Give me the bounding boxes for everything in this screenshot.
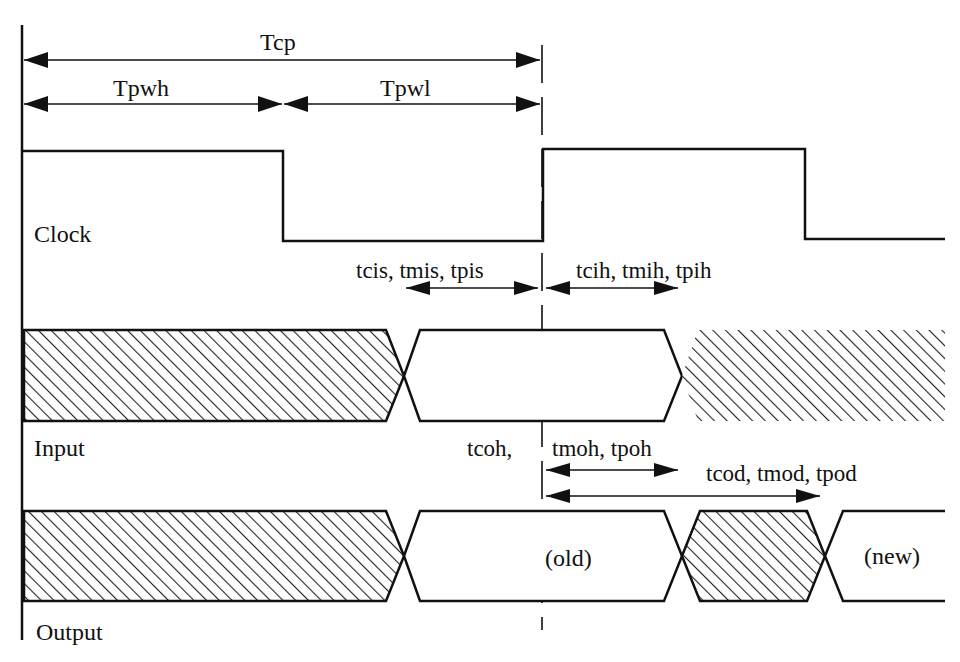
input-signal-label: Input bbox=[34, 435, 85, 461]
output-undefined-region-left bbox=[24, 511, 404, 601]
tpwh-label: Tpwh bbox=[113, 75, 169, 101]
output-hold-prefix-label: tcoh, bbox=[467, 436, 512, 461]
output-old-value-label: (old) bbox=[545, 545, 592, 571]
output-old-value-region bbox=[404, 511, 682, 601]
output-new-value-label: (new) bbox=[864, 543, 920, 569]
output-waveform bbox=[24, 511, 945, 601]
setup-time-arrow bbox=[406, 281, 538, 295]
output-signal-label: Output bbox=[36, 619, 103, 645]
hold-time-label: tcih, tmih, tpih bbox=[576, 258, 712, 283]
output-delay-label: tcod, tmod, tpod bbox=[706, 461, 857, 486]
input-valid-region bbox=[404, 330, 682, 421]
tcp-label: Tcp bbox=[260, 29, 296, 55]
input-undefined-region-right bbox=[682, 330, 945, 421]
output-delay-arrow bbox=[546, 489, 820, 503]
clock-signal-label: Clock bbox=[34, 221, 91, 247]
hold-time-arrow bbox=[546, 281, 678, 295]
clock-waveform bbox=[22, 149, 945, 241]
tpwl-label: Tpwl bbox=[380, 75, 431, 101]
timing-diagram: Tcp Tpwh Tpwl Clock tcis, tmis, tpis tci… bbox=[0, 0, 960, 662]
setup-time-label: tcis, tmis, tpis bbox=[356, 258, 484, 283]
output-hold-arrow bbox=[546, 463, 678, 477]
input-undefined-region-left bbox=[24, 330, 404, 421]
output-transition-region bbox=[682, 511, 825, 601]
input-waveform bbox=[24, 330, 945, 421]
output-hold-label: tmoh, tpoh bbox=[552, 436, 652, 461]
